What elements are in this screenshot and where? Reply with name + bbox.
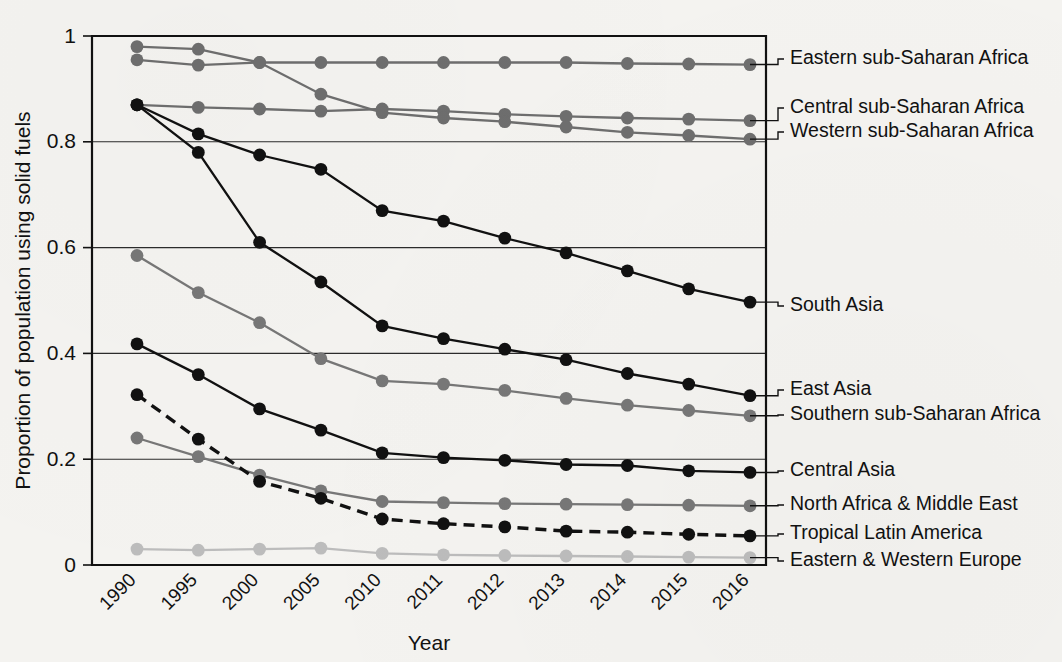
data-point: [621, 57, 634, 70]
series-labels-group: Eastern sub-Saharan AfricaCentral sub-Sa…: [750, 46, 1041, 570]
data-point: [498, 454, 511, 467]
data-point: [131, 98, 144, 111]
chart-page: 00.20.40.60.8119901995200020052010201120…: [0, 0, 1062, 662]
data-point: [560, 525, 573, 538]
data-point: [192, 450, 205, 463]
series-label-south-asia: South Asia: [790, 293, 883, 315]
solid-fuels-line-chart: 00.20.40.60.8119901995200020052010201120…: [0, 0, 1062, 662]
series-label-eastern-sub-saharan-africa: Eastern sub-Saharan Africa: [790, 46, 1029, 68]
data-point: [621, 367, 634, 380]
data-point: [682, 129, 695, 142]
y-tick-label-0.4: 0.4: [47, 341, 77, 364]
data-point: [376, 204, 389, 217]
x-tick-label-2014: 2014: [585, 569, 630, 614]
data-point: [560, 353, 573, 366]
series-eastern-sub-saharan-africa: [131, 53, 757, 71]
y-tick-label-0.2: 0.2: [47, 447, 76, 470]
data-point: [192, 368, 205, 381]
x-tick-label-2013: 2013: [524, 569, 569, 614]
series-line: [137, 438, 750, 506]
data-point: [253, 103, 266, 116]
data-point: [437, 332, 450, 345]
series-eastern-western-europe: [131, 542, 757, 564]
data-point: [192, 286, 205, 299]
data-point: [315, 88, 328, 101]
data-point: [131, 40, 144, 53]
x-tick-label-2016: 2016: [708, 569, 753, 614]
plot-frame: [92, 36, 766, 565]
series-north-africa-middle-east: [131, 432, 757, 513]
data-point: [437, 451, 450, 464]
data-point: [315, 163, 328, 176]
gridlines-group: [92, 142, 766, 459]
data-point: [253, 475, 266, 488]
data-point: [376, 56, 389, 69]
data-point: [498, 521, 511, 534]
data-point: [682, 404, 695, 417]
y-tick-label-0: 0: [64, 553, 76, 576]
data-point: [621, 112, 634, 125]
data-point: [560, 458, 573, 471]
data-point: [437, 112, 450, 125]
series-western-sub-saharan-africa: [131, 40, 757, 145]
data-point: [621, 126, 634, 139]
data-point: [560, 56, 573, 69]
data-point: [498, 56, 511, 69]
data-point: [682, 283, 695, 296]
data-point: [131, 53, 144, 66]
series-label-western-sub-saharan-africa: Western sub-Saharan Africa: [790, 119, 1034, 141]
series-label-north-africa-middle-east: North Africa & Middle East: [790, 492, 1018, 514]
data-point: [682, 499, 695, 512]
x-tick-label-1990: 1990: [95, 569, 140, 614]
x-tick-label-2015: 2015: [647, 569, 692, 614]
data-point: [192, 127, 205, 140]
series-south-asia: [131, 98, 757, 308]
data-point: [498, 497, 511, 510]
data-point: [437, 215, 450, 228]
data-point: [621, 526, 634, 539]
x-tick-label-2012: 2012: [463, 569, 508, 614]
data-point: [376, 547, 389, 560]
x-tick-label-2011: 2011: [403, 569, 447, 613]
data-point: [621, 399, 634, 412]
data-point: [253, 403, 266, 416]
data-point: [192, 433, 205, 446]
data-point: [437, 496, 450, 509]
data-point: [253, 543, 266, 556]
data-point: [376, 375, 389, 388]
data-point: [315, 424, 328, 437]
series-label-central-asia: Central Asia: [790, 458, 895, 480]
data-point: [682, 113, 695, 126]
data-point: [682, 464, 695, 477]
data-point: [498, 384, 511, 397]
series-label-tropical-latin-america: Tropical Latin America: [790, 521, 982, 543]
data-point: [376, 320, 389, 333]
data-point: [253, 316, 266, 329]
y-tick-label-0.8: 0.8: [47, 129, 76, 152]
data-point: [621, 498, 634, 511]
data-point: [560, 247, 573, 260]
data-point: [376, 513, 389, 526]
data-point: [621, 459, 634, 472]
y-tick-label-0.6: 0.6: [47, 235, 76, 258]
label-leader-line: [750, 415, 784, 416]
data-point: [253, 149, 266, 162]
data-point: [315, 492, 328, 505]
data-point: [253, 56, 266, 69]
label-leader-line: [750, 505, 784, 506]
data-point: [437, 378, 450, 391]
data-point: [682, 551, 695, 564]
series-label-east-asia: East Asia: [790, 377, 871, 399]
series-line: [137, 105, 750, 396]
series-label-central-sub-saharan-africa: Central sub-Saharan Africa: [790, 95, 1024, 117]
x-tick-label-2000: 2000: [218, 569, 263, 614]
data-point: [315, 105, 328, 118]
data-point: [315, 542, 328, 555]
data-point: [560, 392, 573, 405]
data-point: [621, 265, 634, 278]
x-tick-label-2005: 2005: [279, 569, 324, 614]
data-point: [498, 232, 511, 245]
data-point: [131, 432, 144, 445]
series-group: [131, 40, 757, 564]
data-point: [131, 249, 144, 262]
